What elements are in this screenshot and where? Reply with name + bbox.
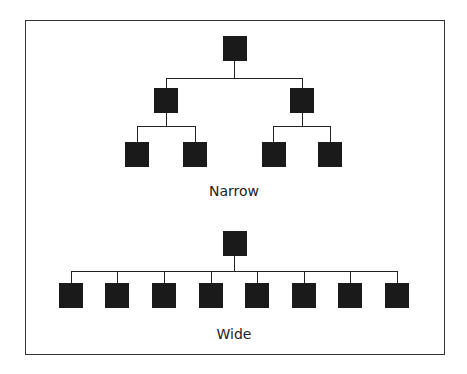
wide-leaf-node — [292, 283, 316, 308]
connector — [71, 271, 398, 272]
wide-leaf-node — [59, 283, 83, 308]
connector — [234, 255, 235, 271]
connector — [166, 113, 167, 126]
connector — [273, 126, 331, 127]
connector — [71, 271, 72, 283]
narrow-leaf-node — [183, 142, 207, 167]
connector — [137, 126, 195, 127]
wide-leaf-node — [152, 283, 176, 308]
wide-root-node — [223, 231, 247, 256]
connector — [195, 126, 196, 142]
connector — [117, 271, 118, 283]
narrow-label: Narrow — [209, 183, 259, 199]
narrow-root-node — [223, 36, 247, 61]
connector — [302, 78, 303, 88]
wide-leaf-node — [245, 283, 269, 308]
connector — [234, 60, 235, 78]
connector — [330, 126, 331, 142]
wide-leaf-node — [338, 283, 362, 308]
wide-leaf-node — [199, 283, 223, 308]
narrow-leaf-node — [262, 142, 286, 167]
wide-label: Wide — [217, 326, 252, 342]
wide-leaf-node — [385, 283, 409, 308]
connector — [164, 271, 165, 283]
connector — [273, 126, 274, 142]
connector — [257, 271, 258, 283]
connector — [350, 271, 351, 283]
connector — [211, 271, 212, 283]
narrow-level2-node-left — [154, 88, 178, 113]
connector — [302, 113, 303, 126]
connector — [166, 78, 303, 79]
narrow-leaf-node — [318, 142, 342, 167]
connector — [397, 271, 398, 283]
narrow-leaf-node — [125, 142, 149, 167]
narrow-level2-node-right — [290, 88, 314, 113]
wide-leaf-node — [105, 283, 129, 308]
connector — [166, 78, 167, 88]
connector — [304, 271, 305, 283]
connector — [137, 126, 138, 142]
